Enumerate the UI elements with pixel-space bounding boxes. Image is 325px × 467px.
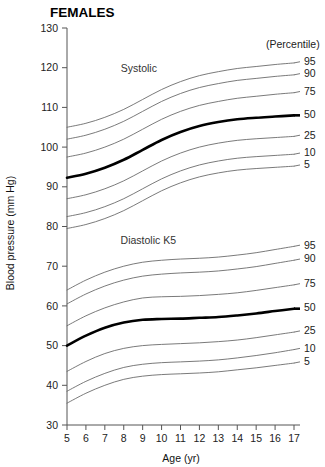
legend-label-p95: 95 — [304, 239, 316, 251]
legend-label-p50: 50 — [304, 301, 316, 313]
x-tick-label: 11 — [175, 432, 186, 444]
x-tick-label: 13 — [212, 432, 224, 444]
legend-leader-p25 — [294, 135, 300, 136]
chart-svg: FEMALES 30405060708090100110120130 56789… — [0, 0, 325, 467]
annotation-systolic: Systolic — [121, 62, 157, 74]
curve-diastolic-k5-p25 — [67, 332, 294, 371]
y-tick-label: 110 — [41, 101, 58, 113]
curve-diastolic-k5-p50 — [67, 309, 294, 346]
y-tick-label: 70 — [46, 260, 58, 272]
y-tick-label: 30 — [46, 419, 58, 431]
x-tick-label: 12 — [194, 432, 206, 444]
y-tick-label: 120 — [40, 61, 58, 73]
legend-label-p75: 75 — [304, 85, 316, 97]
legend-leader-p25 — [294, 331, 300, 332]
legend-leader-p10 — [294, 348, 300, 349]
blood-pressure-chart: FEMALES 30405060708090100110120130 56789… — [0, 0, 325, 467]
legend-label-p90: 90 — [304, 252, 316, 264]
curve-group-systolic — [67, 63, 294, 229]
x-tick-label: 15 — [250, 432, 262, 444]
curve-diastolic-k5-p95 — [67, 246, 294, 290]
x-tick-label: 16 — [269, 432, 281, 444]
curve-group-diastolic-k5 — [67, 246, 294, 403]
y-tick-label: 50 — [46, 339, 58, 351]
annotation-diastolic-k5: Diastolic K5 — [121, 234, 177, 246]
x-tick-label: 14 — [231, 432, 243, 444]
y-tick-label: 40 — [46, 379, 58, 391]
legend-leader-p90 — [294, 74, 300, 75]
chart-title-group: FEMALES — [50, 5, 115, 20]
legend-label-p5: 5 — [304, 355, 310, 367]
x-tick-label: 17 — [288, 432, 300, 444]
legend-label-p5: 5 — [304, 158, 310, 170]
legend-label-p10: 10 — [304, 342, 316, 354]
legend-leader-p5 — [294, 362, 300, 363]
legend-label-p50: 50 — [304, 108, 316, 120]
y-tick-label: 130 — [40, 22, 58, 34]
curve-systolic-p90 — [67, 75, 294, 139]
y-tick-label: 80 — [46, 220, 58, 232]
x-axis-title: Age (yr) — [162, 452, 199, 464]
percentile-curves — [67, 63, 294, 403]
x-tick-label: 6 — [83, 432, 89, 444]
x-tick-label: 9 — [140, 432, 146, 444]
curve-diastolic-k5-p10 — [67, 350, 294, 392]
legend-leader-p75 — [294, 92, 300, 93]
curve-systolic-p75 — [67, 93, 294, 157]
y-axis-title: Blood pressure (mm Hg) — [4, 176, 16, 290]
percentile-legend: 95907550251059590755025105 — [294, 55, 316, 367]
legend-leader-p75 — [294, 284, 300, 285]
y-axis: 30405060708090100110120130 — [40, 22, 67, 431]
curve-systolic-p5 — [67, 166, 294, 228]
legend-label-p95: 95 — [304, 55, 316, 67]
legend-label-p25: 25 — [304, 129, 316, 141]
legend-leader-p10 — [294, 153, 300, 154]
legend-leader-p95 — [294, 62, 300, 63]
x-tick-label: 7 — [102, 432, 108, 444]
legend-header: (Percentile) — [266, 38, 320, 50]
curve-systolic-p10 — [67, 154, 294, 216]
y-tick-label: 100 — [40, 141, 58, 153]
legend-label-p25: 25 — [304, 324, 316, 336]
x-tick-label: 5 — [64, 432, 70, 444]
legend-leader-p95 — [294, 245, 300, 246]
curve-systolic-p25 — [67, 136, 294, 198]
legend-leader-p90 — [294, 259, 300, 260]
series-annotations: SystolicDiastolic K5 — [121, 62, 177, 247]
x-tick-label: 8 — [121, 432, 127, 444]
x-axis: 567891011121314151617 — [64, 425, 300, 444]
curve-diastolic-k5-p5 — [67, 363, 294, 403]
y-tick-label: 60 — [46, 300, 58, 312]
legend-label-p90: 90 — [304, 67, 316, 79]
y-tick-label: 90 — [46, 180, 58, 192]
curve-diastolic-k5-p90 — [67, 260, 294, 304]
x-tick-label: 10 — [156, 432, 168, 444]
legend-label-p10: 10 — [304, 146, 316, 158]
legend-label-p75: 75 — [304, 277, 316, 289]
chart-title: FEMALES — [50, 5, 115, 20]
legend-leader-p5 — [294, 165, 300, 166]
